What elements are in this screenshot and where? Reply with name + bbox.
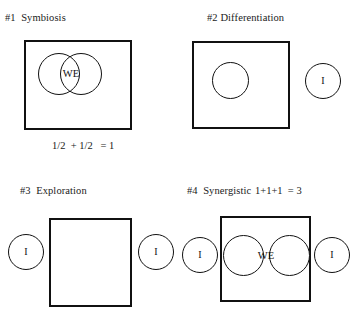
panel-differentiation-i-label: I bbox=[305, 76, 341, 86]
panel-symbiosis-caption: 1/2 + 1/2 = 1 bbox=[52, 140, 114, 152]
panel-synergistic-formula: 1+1+1 = 3 bbox=[255, 185, 302, 197]
panel-symbiosis-we-label: WE bbox=[60, 69, 82, 79]
panel-exploration-boundary-box bbox=[49, 218, 132, 307]
panel-differentiation-title: #2 Differentiation bbox=[207, 12, 284, 24]
panel-differentiation-inner-circle bbox=[212, 62, 249, 99]
panel-differentiation: #2 Differentiation I bbox=[179, 0, 358, 160]
diagram-canvas: #1 Symbiosis WE 1/2 + 1/2 = 1 #2 Differe… bbox=[0, 0, 358, 320]
panel-exploration-i-label-left: I bbox=[8, 247, 44, 257]
panel-symbiosis: #1 Symbiosis WE 1/2 + 1/2 = 1 bbox=[0, 0, 179, 160]
panel-synergistic-i-label-right: I bbox=[314, 250, 350, 260]
panel-synergistic-i-label-left: I bbox=[182, 250, 218, 260]
panel-symbiosis-title: #1 Symbiosis bbox=[5, 12, 66, 24]
panel-exploration-i-label-right: I bbox=[138, 247, 174, 257]
panel-synergistic-title: #4 Synergistic bbox=[187, 185, 251, 197]
panel-exploration-title: #3 Exploration bbox=[20, 185, 87, 197]
panel-synergistic-we-label: WE bbox=[255, 251, 277, 261]
panel-synergistic: #4 Synergistic 1+1+1 = 3 I WE I bbox=[179, 160, 358, 320]
panel-exploration: #3 Exploration I I bbox=[0, 160, 179, 320]
